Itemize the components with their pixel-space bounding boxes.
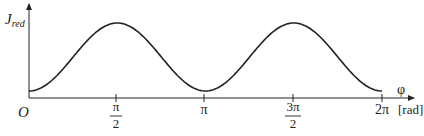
y-axis-label: Jred — [5, 11, 26, 29]
svg-text:2: 2 — [113, 116, 120, 131]
chart: Jred O π 2 π 3π 2 2π φ [rad] — [0, 0, 424, 136]
x-axis-unit: [rad] — [398, 102, 423, 117]
x-tick-labels: π 2 π 3π 2 2π — [110, 99, 389, 131]
svg-text:π: π — [200, 102, 207, 117]
svg-text:2π: 2π — [375, 102, 389, 117]
svg-text:3π: 3π — [286, 99, 300, 114]
data-curve — [29, 23, 382, 91]
svg-text:π: π — [113, 99, 120, 114]
origin-label: O — [18, 104, 29, 120]
x-axis-label: φ — [397, 82, 405, 97]
svg-text:2: 2 — [290, 116, 297, 131]
